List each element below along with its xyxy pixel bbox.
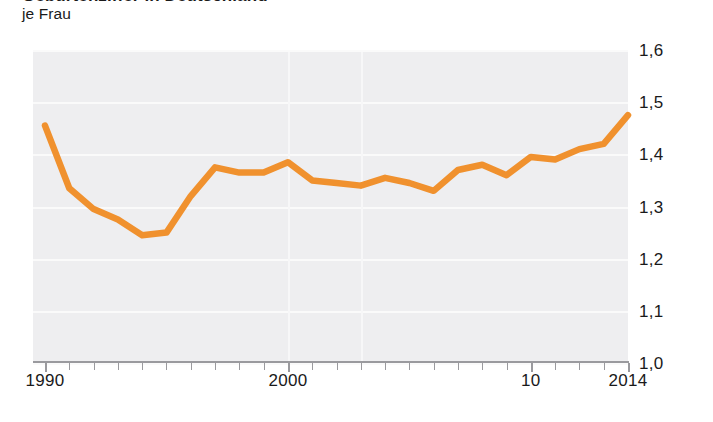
x-axis-tick	[507, 363, 508, 370]
x-axis-tick	[458, 363, 459, 370]
x-axis-tick	[409, 363, 410, 370]
x-axis-line	[33, 361, 629, 363]
x-axis-tick	[434, 363, 435, 370]
x-axis-tick-label: 10	[521, 372, 541, 389]
x-axis-tick	[361, 363, 362, 370]
x-axis-tick	[337, 363, 338, 370]
y-axis-tick-label: 1,1	[639, 303, 664, 320]
x-axis-tick	[288, 363, 290, 372]
x-axis-tick	[531, 363, 533, 372]
gridline-horizontal	[33, 50, 628, 52]
gridline-horizontal	[33, 311, 628, 313]
x-axis-tick	[264, 363, 265, 370]
x-axis-tick	[579, 363, 580, 370]
x-axis-tick	[142, 363, 143, 370]
x-axis-tick-label: 1990	[25, 372, 64, 389]
x-axis-tick	[94, 363, 95, 370]
x-axis-tick	[166, 363, 167, 370]
x-axis-tick	[555, 363, 556, 370]
x-axis-tick	[604, 363, 605, 370]
x-axis-tick	[385, 363, 386, 370]
chart-subtitle: je Frau	[22, 5, 71, 23]
chart-title: Geburtenziffer in Deutschland	[22, 0, 622, 4]
plot-area	[33, 52, 628, 362]
x-axis-tick	[191, 363, 192, 370]
gridline-horizontal	[33, 154, 628, 156]
gridline-vertical	[361, 52, 363, 362]
y-axis-tick-label: 1,5	[639, 94, 664, 111]
x-axis-tick	[482, 363, 483, 370]
x-axis-tick-label: 2014	[608, 372, 647, 389]
x-axis-tick	[628, 363, 630, 372]
y-axis-tick-label: 1,3	[639, 199, 664, 216]
gridline-horizontal	[33, 102, 628, 104]
x-axis-tick	[239, 363, 240, 370]
x-axis-tick	[69, 363, 70, 370]
gridline-horizontal	[33, 259, 628, 261]
y-axis-tick-label: 1,0	[639, 355, 664, 372]
gridline-horizontal	[33, 207, 628, 209]
y-axis-tick-label: 1,2	[639, 251, 664, 268]
x-axis-tick	[312, 363, 313, 370]
y-axis-tick-label: 1,4	[639, 146, 664, 163]
gridline-vertical	[288, 52, 290, 362]
x-axis-tick	[118, 363, 119, 370]
x-axis-tick	[45, 363, 47, 372]
y-axis-tick-label: 1,6	[639, 42, 664, 59]
x-axis-tick-label: 2000	[268, 372, 307, 389]
chart-figure: Geburtenziffer in Deutschland je Frau 1,…	[0, 0, 713, 422]
gridline-horizontal	[33, 363, 628, 365]
x-axis-tick	[215, 363, 216, 370]
